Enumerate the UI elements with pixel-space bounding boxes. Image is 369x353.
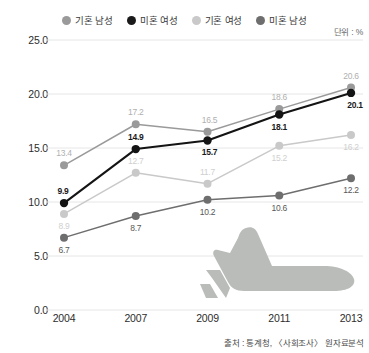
- data-point-label: 18.6: [271, 92, 287, 102]
- data-point-label: 11.7: [200, 167, 215, 177]
- data-point-marker[interactable]: [132, 120, 140, 128]
- chart-figure: 기혼 남성미혼 여성기혼 여성미혼 남성 단위 : % 0.05.010.015…: [0, 0, 369, 353]
- x-axis-tick-label: 2013: [340, 312, 363, 324]
- x-axis-tick-label: 2011: [268, 312, 290, 324]
- data-point-label: 18.1: [271, 122, 287, 132]
- y-axis-tick-label: 5.0: [4, 250, 48, 262]
- legend-marker-icon: [62, 16, 71, 25]
- data-point-label: 14.9: [128, 132, 144, 142]
- data-point-marker[interactable]: [347, 131, 355, 139]
- data-point-marker[interactable]: [204, 196, 212, 204]
- legend-marker-icon: [256, 16, 265, 25]
- chart-legend: 기혼 남성미혼 여성기혼 여성미혼 남성: [0, 13, 369, 27]
- legend-label: 미혼 남성: [269, 13, 307, 27]
- data-point-label: 9.9: [57, 186, 68, 196]
- data-point-marker[interactable]: [275, 142, 283, 150]
- data-point-label: 16.2: [343, 142, 359, 152]
- legend-label: 기혼 여성: [205, 13, 243, 27]
- data-point-marker[interactable]: [60, 234, 68, 242]
- data-point-label: 8.9: [58, 221, 69, 231]
- legend-entry[interactable]: 미혼 여성: [127, 13, 178, 27]
- data-point-label: 15.7: [202, 147, 218, 157]
- data-point-marker[interactable]: [347, 89, 355, 97]
- data-point-label: 17.2: [128, 107, 144, 117]
- data-point-marker[interactable]: [60, 199, 68, 207]
- data-point-marker[interactable]: [132, 169, 140, 177]
- y-axis-tick-label: 10.0: [4, 196, 48, 208]
- legend-entry[interactable]: 기혼 여성: [192, 13, 243, 27]
- data-point-label: 12.7: [128, 156, 144, 166]
- data-point-label: 8.7: [130, 223, 141, 233]
- data-point-marker[interactable]: [60, 161, 68, 169]
- y-axis-tick-label: 25.0: [4, 34, 48, 46]
- legend-marker-icon: [192, 16, 201, 25]
- data-point-marker[interactable]: [132, 145, 140, 153]
- legend-label: 기혼 남성: [75, 13, 113, 27]
- x-axis-tick-label: 2007: [124, 312, 147, 324]
- data-point-label: 13.4: [56, 148, 72, 158]
- source-note: 출처 : 통계청, 〈사회조사〉 원자료분석: [224, 336, 364, 348]
- legend-entry[interactable]: 미혼 남성: [256, 13, 307, 27]
- data-point-marker[interactable]: [204, 180, 212, 188]
- data-point-marker[interactable]: [204, 128, 212, 136]
- data-point-marker[interactable]: [275, 192, 283, 200]
- data-point-label: 12.2: [343, 185, 359, 195]
- y-axis-tick-label: 0.0: [4, 304, 48, 316]
- y-axis-tick-label: 20.0: [4, 88, 48, 100]
- y-axis-tick-label: 15.0: [4, 142, 48, 154]
- x-axis-tick-label: 2009: [196, 312, 219, 324]
- data-point-label: 15.2: [271, 153, 287, 163]
- data-point-marker[interactable]: [60, 210, 68, 218]
- data-point-label: 20.1: [347, 100, 363, 110]
- plot-area: 13.417.216.518.620.69.914.915.718.120.18…: [46, 40, 363, 310]
- data-point-label: 16.5: [202, 115, 218, 125]
- x-axis: 20042007200920112013: [46, 312, 363, 330]
- unit-note: 단위 : %: [334, 25, 363, 37]
- data-point-label: 10.6: [271, 203, 287, 213]
- data-point-marker[interactable]: [275, 110, 283, 118]
- data-point-label: 6.7: [58, 245, 69, 255]
- x-axis-tick-label: 2004: [53, 312, 76, 324]
- data-point-marker[interactable]: [347, 174, 355, 182]
- legend-marker-icon: [127, 16, 136, 25]
- data-point-label: 10.2: [200, 207, 216, 217]
- data-point-marker[interactable]: [203, 136, 211, 144]
- data-point-marker[interactable]: [132, 212, 140, 220]
- legend-label: 미혼 여성: [140, 13, 178, 27]
- legend-entry[interactable]: 기혼 남성: [62, 13, 113, 27]
- data-point-label: 20.6: [343, 71, 359, 81]
